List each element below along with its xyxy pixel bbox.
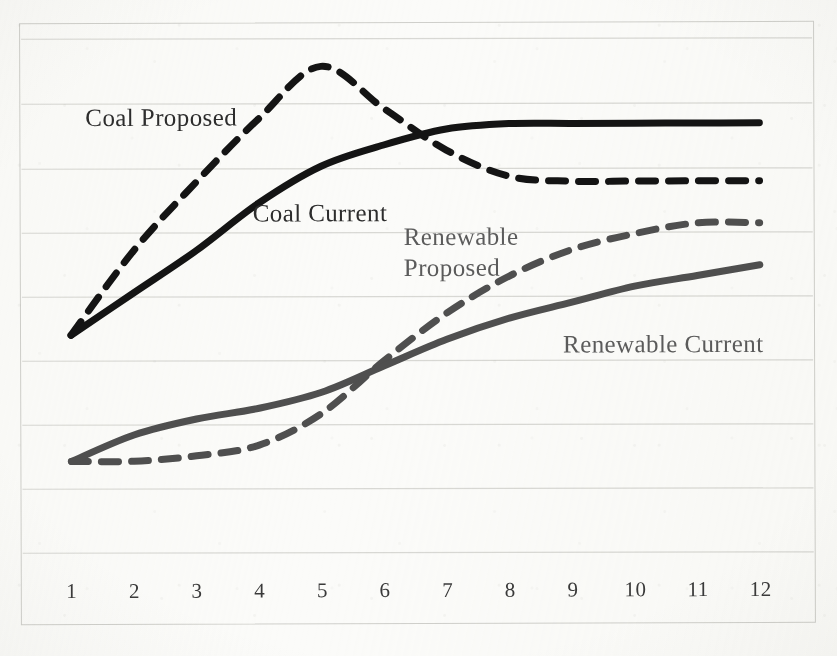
printed-sheet: Coal ProposedCoal CurrentRenewablePropos… bbox=[0, 0, 837, 656]
x-tick-label-3: 3 bbox=[177, 579, 217, 604]
gridline-0 bbox=[21, 37, 812, 41]
x-tick-label-11: 11 bbox=[678, 577, 718, 602]
x-tick-label-1: 1 bbox=[52, 579, 92, 604]
gridline-2 bbox=[21, 167, 812, 171]
annotation-renewable-current: Renewable Current bbox=[563, 329, 764, 360]
x-tick-label-8: 8 bbox=[490, 578, 530, 603]
gridline-7 bbox=[23, 487, 814, 491]
chart-plot-area bbox=[0, 0, 837, 656]
gridline-6 bbox=[22, 423, 813, 427]
x-tick-label-5: 5 bbox=[302, 578, 342, 603]
series-line-renewable-current bbox=[71, 265, 761, 462]
gridline-8 bbox=[23, 551, 814, 555]
chart-canvas: Coal ProposedCoal CurrentRenewablePropos… bbox=[0, 0, 837, 656]
annotation-coal-proposed-line1: Coal Proposed bbox=[85, 103, 237, 134]
annotation-coal-proposed: Coal Proposed bbox=[85, 103, 237, 134]
annotation-renewable-proposed-line2: Proposed bbox=[404, 252, 519, 283]
annotation-renewable-current-line1: Renewable Current bbox=[563, 329, 764, 360]
annotation-coal-current: Coal Current bbox=[253, 198, 388, 229]
annotation-renewable-proposed: RenewableProposed bbox=[404, 222, 519, 283]
annotation-coal-current-line1: Coal Current bbox=[253, 198, 388, 229]
x-tick-label-9: 9 bbox=[553, 577, 593, 602]
x-tick-label-2: 2 bbox=[114, 579, 154, 604]
x-tick-label-7: 7 bbox=[428, 578, 468, 603]
x-tick-label-10: 10 bbox=[616, 577, 656, 602]
x-tick-label-12: 12 bbox=[741, 577, 781, 602]
x-tick-label-6: 6 bbox=[365, 578, 405, 603]
x-tick-label-4: 4 bbox=[240, 578, 280, 603]
gridline-4 bbox=[22, 295, 813, 299]
annotation-renewable-proposed-line1: Renewable bbox=[404, 222, 519, 253]
